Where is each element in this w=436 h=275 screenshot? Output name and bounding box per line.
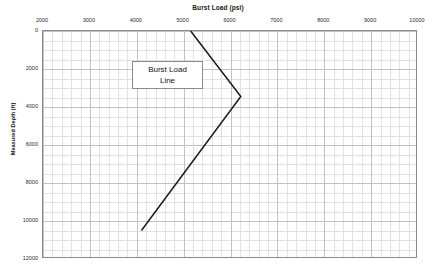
y-axis-tick-label: 6000 xyxy=(0,141,38,147)
plot-area xyxy=(42,30,417,258)
x-axis-tick-label: 5000 xyxy=(163,17,203,23)
data-series-layer xyxy=(43,31,417,258)
annotation-line-2: Line xyxy=(160,75,175,86)
x-axis-tick-label: 10000 xyxy=(397,17,436,23)
y-axis-tick-label: 2000 xyxy=(0,65,38,71)
x-axis-tick-label: 2000 xyxy=(22,17,62,23)
x-axis-tick-label: 3000 xyxy=(69,17,109,23)
y-axis-tick-label: 12000 xyxy=(0,255,38,261)
burst-load-line-annotation: Burst Load Line xyxy=(132,61,203,89)
x-axis-tick-label: 7000 xyxy=(256,17,296,23)
x-axis-tick-label: 6000 xyxy=(210,17,250,23)
y-axis-tick-label: 10000 xyxy=(0,217,38,223)
x-axis-tick-label: 9000 xyxy=(350,17,390,23)
chart-title: Burst Load (psi) xyxy=(0,4,436,11)
x-axis-tick-label: 8000 xyxy=(303,17,343,23)
y-axis-tick-label: 4000 xyxy=(0,103,38,109)
burst-load-chart-figure: Burst Load (psi) Measured Depth (ft) 200… xyxy=(0,0,436,275)
y-axis-tick-label: 0 xyxy=(0,27,38,33)
annotation-line-1: Burst Load xyxy=(148,64,187,75)
x-axis-tick-label: 4000 xyxy=(116,17,156,23)
y-axis-tick-label: 8000 xyxy=(0,179,38,185)
